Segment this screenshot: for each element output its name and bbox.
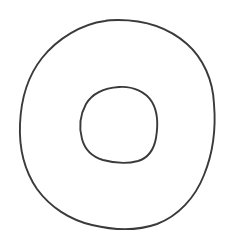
canvas-background — [0, 0, 236, 247]
annulus-drawing — [0, 0, 236, 247]
sketch-canvas — [0, 0, 236, 247]
